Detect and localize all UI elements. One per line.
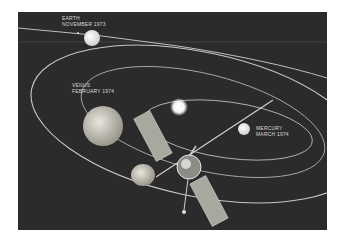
moon xyxy=(77,32,79,34)
mercury-planet xyxy=(238,123,250,135)
outer-orbit xyxy=(18,18,327,230)
mercury-label: MERCURY MARCH 1974 xyxy=(256,125,289,137)
venus-planet xyxy=(83,106,123,146)
venus-label: VENUS FEBRUARY 1974 xyxy=(72,82,114,94)
small-planet xyxy=(131,164,155,186)
venus-date: FEBRUARY 1974 xyxy=(72,88,114,94)
earth-transfer-path xyxy=(18,28,327,78)
mercury-date: MARCH 1974 xyxy=(256,131,289,137)
earth-planet xyxy=(84,30,100,46)
sun xyxy=(170,98,188,116)
earth-date: NOVEMBER 1973 xyxy=(62,21,106,27)
spacecraft xyxy=(134,100,273,226)
earth-label: EARTH NOVEMBER 1973 xyxy=(62,15,106,27)
orbit-scene xyxy=(18,12,327,230)
mission-illustration: EARTH NOVEMBER 1973 VENUS FEBRUARY 1974 … xyxy=(18,12,327,230)
